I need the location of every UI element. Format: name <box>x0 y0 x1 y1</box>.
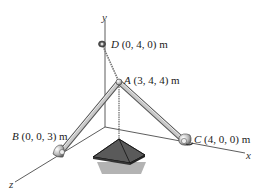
label-B: B (0, 0, 3) m <box>12 131 68 142</box>
diagram-canvas <box>0 0 259 190</box>
label-D-coords: (0, 4, 0) m <box>122 38 168 50</box>
label-D-letter: D <box>111 38 119 50</box>
weight-shadow <box>97 162 146 174</box>
support-D <box>99 41 106 47</box>
support-B <box>53 145 65 157</box>
label-C-letter: C <box>194 133 201 145</box>
label-C: C (4, 0, 0) m <box>194 134 250 145</box>
x-axis-label: x <box>246 150 251 161</box>
label-A-coords: (3, 4, 4) m <box>133 74 179 86</box>
y-axis-label: y <box>102 12 107 23</box>
joint-A <box>116 79 122 85</box>
z-axis-label: z <box>9 179 13 190</box>
label-A: A (3, 4, 4) m <box>124 75 180 86</box>
strut-AB <box>60 81 119 152</box>
label-A-letter: A <box>124 74 131 86</box>
label-B-coords: (0, 0, 3) m <box>21 130 67 142</box>
label-B-letter: B <box>12 130 19 142</box>
hanging-weight <box>93 139 145 165</box>
support-C <box>179 134 193 145</box>
label-C-coords: (4, 0, 0) m <box>204 133 250 145</box>
label-D: D (0, 4, 0) m <box>111 39 168 50</box>
